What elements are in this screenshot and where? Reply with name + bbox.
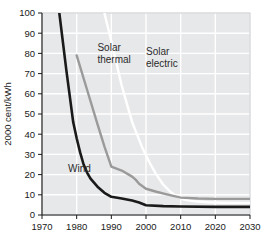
y-tick-label: 0 [30,209,35,220]
x-tick-label: 1980 [66,221,87,232]
y-tick-label: 70 [24,68,35,79]
y-tick-label: 30 [24,149,35,160]
x-tick-label: 2030 [239,221,260,232]
svg-text:Solar: Solar [97,42,121,53]
wind-label: Wind [68,163,91,174]
y-tick-label: 10 [24,189,35,200]
x-tick-label: 2010 [170,221,191,232]
y-tick-label: 60 [24,88,35,99]
svg-text:Solar: Solar [146,46,170,57]
chart-container: 1970198019902000201020202030 01020304050… [0,0,268,251]
svg-text:electric: electric [146,58,178,69]
y-tick-label: 50 [24,108,35,119]
y-axis-title: 2000 cent/kWh [2,82,13,145]
x-tick-label: 2000 [135,221,156,232]
x-tick-label: 1990 [101,221,122,232]
svg-text:thermal: thermal [97,54,130,65]
energy-cost-line-chart: 1970198019902000201020202030 01020304050… [0,0,268,251]
y-tick-label: 20 [24,169,35,180]
x-tick-label: 2020 [205,221,226,232]
y-tick-label: 90 [24,28,35,39]
x-tick-label: 1970 [31,221,52,232]
y-tick-label: 80 [24,48,35,59]
y-tick-label: 100 [19,7,35,18]
y-tick-label: 40 [24,129,35,140]
